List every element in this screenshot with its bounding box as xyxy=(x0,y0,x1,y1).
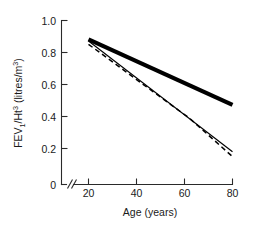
y-axis-title-close: ) xyxy=(12,58,24,62)
series-thick-solid-line xyxy=(89,39,233,105)
svg-text:FEV1/Ht3 (litres/m3): FEV1/Ht3 (litres/m3) xyxy=(11,58,27,148)
x-tick-label-80: 80 xyxy=(227,187,239,199)
y-axis-title-tail: (litres/m xyxy=(12,65,24,106)
chart-figure: 1.0 0.8 0.6 0.4 0.2 0 20 40 60 80 Age (y… xyxy=(0,0,262,233)
x-tick-label-60: 60 xyxy=(179,187,191,199)
series-dashed-line xyxy=(89,44,233,156)
x-tick-label-40: 40 xyxy=(131,187,143,199)
y-axis-title-lead: FEV xyxy=(12,127,24,147)
plot-series xyxy=(89,39,233,156)
y-tick-label-0.4: 0.4 xyxy=(41,111,56,123)
axes xyxy=(62,21,233,185)
y-axis-title: FEV1/Ht3 (litres/m3) xyxy=(11,58,27,148)
y-tick-labels: 1.0 0.8 0.6 0.4 0.2 0 xyxy=(41,15,56,191)
fev1-height-vs-age-line-chart: 1.0 0.8 0.6 0.4 0.2 0 20 40 60 80 Age (y… xyxy=(0,0,262,233)
y-axis-title-mid: /Ht xyxy=(12,110,24,124)
y-tick-label-1.0: 1.0 xyxy=(41,15,56,27)
x-tick-labels: 20 40 60 80 xyxy=(83,187,239,199)
y-tick-label-0.8: 0.8 xyxy=(41,47,56,59)
y-ticks xyxy=(62,21,68,149)
y-tick-label-0.6: 0.6 xyxy=(41,79,56,91)
x-ticks xyxy=(89,179,233,185)
y-tick-label-0.2: 0.2 xyxy=(41,143,56,155)
x-tick-label-20: 20 xyxy=(83,187,95,199)
x-axis-title: Age (years) xyxy=(123,206,177,218)
y-tick-label-0: 0 xyxy=(50,179,56,191)
